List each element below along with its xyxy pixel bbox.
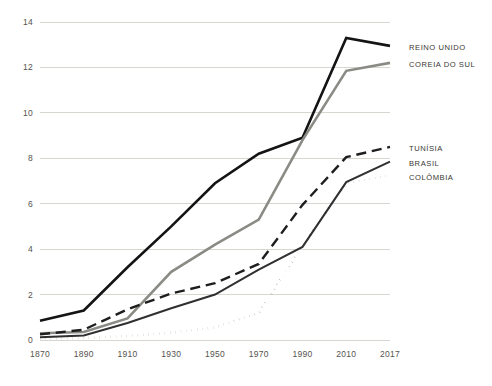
- x-axis-tick-label: 1990: [292, 349, 312, 359]
- series-line-colômbia: [40, 175, 390, 339]
- x-axis-tick-label: 1890: [74, 349, 94, 359]
- y-axis-tick-label: 14: [23, 17, 33, 27]
- x-axis-tick-label: 2017: [380, 349, 400, 359]
- legend-group: REINO UNIDOCOREIA DO SULTUNÍSIABRASILCOL…: [409, 43, 475, 181]
- gridlines-group: [40, 22, 390, 340]
- y-axis-tick-label: 0: [28, 335, 33, 345]
- legend-label-reino-unido: REINO UNIDO: [409, 43, 466, 52]
- y-axis-tick-label: 12: [23, 62, 33, 72]
- y-axis-tick-label: 2: [28, 290, 33, 300]
- y-axis-labels-group: 02468101214: [23, 17, 33, 345]
- y-axis-tick-label: 8: [28, 153, 33, 163]
- x-axis-tick-label: 1950: [205, 349, 225, 359]
- series-line-reino-unido: [40, 38, 390, 321]
- series-line-coreia-do-sul: [40, 63, 390, 333]
- chart-canvas: 02468101214 1870189019101930195019701990…: [0, 0, 492, 386]
- legend-label-brasil: BRASIL: [409, 159, 439, 168]
- x-axis-labels-group: 187018901910193019501970199020102017: [30, 349, 400, 359]
- x-axis-tick-label: 2010: [336, 349, 356, 359]
- x-axis-tick-label: 1910: [117, 349, 137, 359]
- legend-label-colômbia: COLÔMBIA: [409, 173, 454, 182]
- y-axis-tick-label: 6: [28, 199, 33, 209]
- line-chart: 02468101214 1870189019101930195019701990…: [0, 0, 492, 386]
- y-axis-tick-label: 4: [28, 244, 33, 254]
- legend-label-coreia-do-sul: COREIA DO SUL: [409, 60, 475, 69]
- series-line-tunísia: [40, 147, 390, 334]
- legend-label-tunísia: TUNÍSIA: [409, 144, 443, 153]
- y-axis-tick-label: 10: [23, 108, 33, 118]
- x-axis-tick-label: 1970: [249, 349, 269, 359]
- x-axis-tick-label: 1870: [30, 349, 50, 359]
- data-series-group: [40, 38, 390, 339]
- x-axis-tick-label: 1930: [161, 349, 181, 359]
